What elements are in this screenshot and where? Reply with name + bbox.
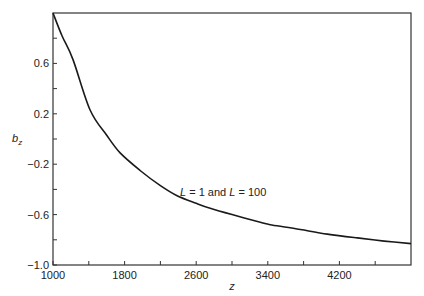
- y-tick-label: 0.2: [34, 108, 49, 120]
- curve-annotation: L = 1 and L = 100: [180, 186, 266, 198]
- y-tick-label: −1.0: [27, 259, 49, 271]
- x-axis-label: z: [228, 280, 235, 292]
- x-tick-label: 2600: [184, 269, 208, 281]
- y-axis-label: bz: [12, 132, 22, 147]
- y-tick-label: −0.2: [27, 158, 49, 170]
- plot-frame: [53, 13, 411, 265]
- x-tick-label: 4200: [327, 269, 351, 281]
- y-tick-label: −0.6: [27, 209, 49, 221]
- x-tick-label: 3400: [256, 269, 280, 281]
- x-tick-label: 1800: [112, 269, 136, 281]
- chart: 10001800260034004200 −1.0−0.6−0.20.20.6 …: [0, 0, 424, 296]
- data-line: [53, 13, 411, 244]
- y-tick-label: 0.6: [34, 57, 49, 69]
- x-axis-ticks: 10001800260034004200: [41, 261, 375, 281]
